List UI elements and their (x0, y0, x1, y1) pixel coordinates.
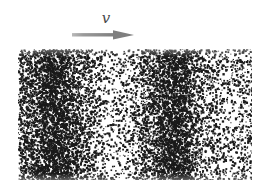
velocity-label: v (96, 9, 116, 27)
particle-field-panel (18, 49, 252, 180)
figure-root: v (0, 0, 271, 189)
velocity-annotation: v (72, 10, 138, 44)
particle-scatter-canvas (18, 49, 252, 180)
velocity-arrow-icon (72, 29, 134, 41)
